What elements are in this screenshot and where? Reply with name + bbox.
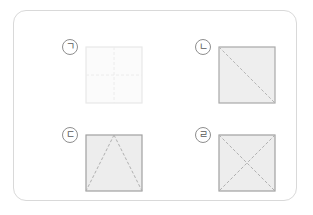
- outer-rounded-frame: ㄱ ㄴ ㄷ ㄹ: [13, 10, 297, 201]
- square-d-two-diagonals: [218, 134, 276, 192]
- square-c-outline: [86, 135, 142, 191]
- label-rieul: ㄹ: [195, 127, 211, 143]
- square-c-triangle: [85, 134, 143, 192]
- square-a-cross-lines: [85, 46, 143, 104]
- label-digeut: ㄷ: [62, 127, 78, 143]
- label-giyeok: ㄱ: [62, 39, 78, 55]
- figure-root: ㄱ ㄴ ㄷ ㄹ: [0, 0, 313, 215]
- label-nieun: ㄴ: [195, 39, 211, 55]
- square-b-one-diagonal: [218, 46, 276, 104]
